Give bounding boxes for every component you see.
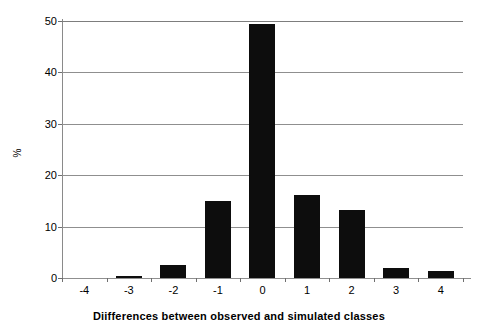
x-tick-mark [463,278,464,282]
bar-slot [329,21,374,278]
bar[interactable] [116,276,142,278]
bar-slot [151,21,196,278]
x-tick-mark [240,278,241,282]
bar-slot [196,21,241,278]
x-tick-label: -4 [79,285,89,296]
x-tick-mark [151,278,152,282]
x-tick-label: -1 [213,285,223,296]
bar-slot [418,21,463,278]
x-tick-label: -3 [124,285,134,296]
y-tick-label: 20 [30,170,57,181]
bar-chart: % 01020304050 -4-3-2-101234 Diifferences… [0,0,478,335]
bar[interactable] [383,268,409,278]
x-tick-mark [107,278,108,282]
x-tick-mark [62,278,63,282]
bar[interactable] [428,271,454,278]
x-tick-label: 3 [393,285,399,296]
x-tick-label: 4 [438,285,444,296]
bar-slot [62,21,107,278]
bar-slot [240,21,285,278]
bar[interactable] [249,24,275,278]
x-axis-title: Diifferences between observed and simula… [0,310,478,322]
bar[interactable] [339,210,365,278]
x-tick-mark [329,278,330,282]
x-tick-mark [285,278,286,282]
y-tick-label: 40 [30,67,57,78]
y-axis-tick-labels: 01020304050 [30,0,57,335]
gridline [62,278,463,279]
x-tick-mark [196,278,197,282]
x-tick-label: 1 [304,285,310,296]
y-tick-label: 0 [30,273,57,284]
y-axis-title: % [8,143,28,163]
bar-slot [285,21,330,278]
y-tick-label: 50 [30,16,57,27]
x-tick-label: -2 [168,285,178,296]
x-tick-mark [374,278,375,282]
bar[interactable] [160,265,186,278]
y-tick-label: 30 [30,119,57,130]
bar-slot [107,21,152,278]
y-tick-label: 10 [30,222,57,233]
x-tick-label: 2 [349,285,355,296]
x-tick-label: 0 [259,285,265,296]
bar-slot [374,21,419,278]
plot-area [62,21,463,278]
bar[interactable] [294,195,320,278]
bar[interactable] [205,201,231,278]
bars-layer [62,21,463,278]
x-tick-mark [418,278,419,282]
